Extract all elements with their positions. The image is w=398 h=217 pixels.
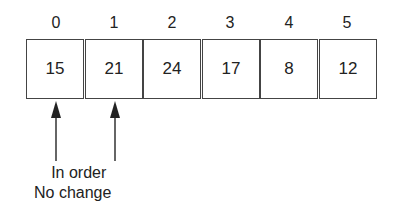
caption: In order No change bbox=[34, 163, 111, 203]
caption-line: No change bbox=[34, 183, 111, 203]
arrow-up-icon bbox=[51, 101, 61, 161]
caption-line: In order bbox=[46, 163, 111, 183]
arrow-up-icon bbox=[110, 101, 120, 161]
